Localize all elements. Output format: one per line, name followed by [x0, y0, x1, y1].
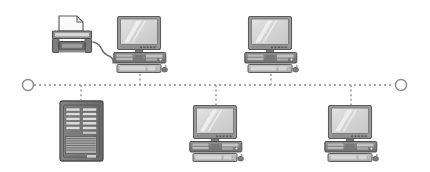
bus-terminator-right [396, 80, 407, 91]
desktop-computer-icon [325, 106, 379, 162]
node-workstation-3[interactable] [190, 106, 244, 162]
tower-server-icon [60, 101, 103, 161]
network-topology-illustration [0, 0, 430, 172]
node-workstation-2[interactable] [245, 17, 299, 73]
desktop-computer-icon [114, 17, 168, 73]
node-workstation-1[interactable] [114, 17, 168, 73]
printer-icon [53, 16, 92, 53]
node-workstation-4[interactable] [325, 106, 379, 162]
printer-cable [93, 42, 113, 63]
node-server[interactable] [60, 101, 103, 161]
desktop-computer-icon [245, 17, 299, 73]
bus-terminator-left [23, 80, 34, 91]
node-printer[interactable] [53, 16, 92, 53]
network-diagram-canvas: Bus Topology Network Diagram [0, 0, 430, 172]
desktop-computer-icon [190, 106, 244, 162]
